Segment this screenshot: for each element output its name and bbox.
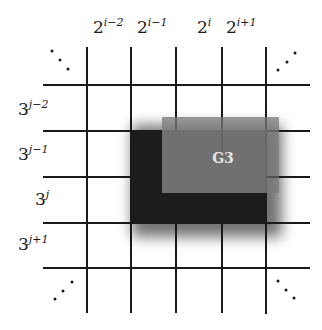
ellipsis-top-right-icon	[277, 52, 297, 72]
col-label-1: 2i−2	[93, 16, 124, 37]
row-label-4: 3j+1	[18, 233, 48, 254]
ellipsis-bottom-left-icon	[54, 281, 74, 301]
grid-diagram: G3 2i−2 2i−1 2i 2i+1 3j−2 3j−1 3j 3j+1	[0, 0, 322, 330]
row-label-3: 3j	[35, 188, 50, 209]
ellipsis-bottom-right-icon	[277, 280, 296, 300]
g3-label: G3	[212, 150, 234, 166]
col-label-4: 2i+1	[226, 16, 257, 37]
col-label-3: 2i	[197, 16, 211, 37]
column-labels: 2i−2 2i−1 2i 2i+1	[93, 16, 257, 37]
col-label-2: 2i−1	[137, 16, 168, 37]
row-label-2: 3j−1	[18, 143, 48, 164]
row-label-1: 3j−2	[18, 98, 48, 119]
ellipsis-top-left-icon	[51, 50, 70, 71]
